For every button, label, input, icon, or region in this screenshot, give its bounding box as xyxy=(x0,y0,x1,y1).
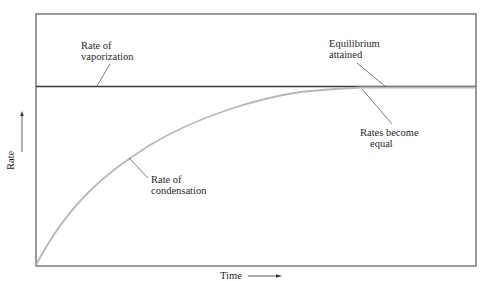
condensation-label: Rate of condensation xyxy=(151,174,206,196)
condensation-leader xyxy=(129,158,148,178)
equilibrium-leader xyxy=(357,63,386,87)
condensation-rate-curve xyxy=(36,88,476,266)
condensation-label-line2: condensation xyxy=(151,185,206,196)
x-axis-arrow-icon xyxy=(276,274,282,278)
vaporization-label-line1: Rate of xyxy=(81,40,133,51)
y-axis-arrow-icon xyxy=(20,111,24,116)
rates-equal-label: Rates become equal xyxy=(360,127,419,149)
vaporization-label: Rate of vaporization xyxy=(81,40,133,62)
rates-equal-label-line1: Rates become xyxy=(360,127,419,138)
condensation-label-line1: Rate of xyxy=(151,174,206,185)
equilibrium-label: Equilibrium attained xyxy=(329,38,380,60)
equilibrium-label-line2: attained xyxy=(329,49,380,60)
rates-equal-label-line2: equal xyxy=(360,138,419,149)
vaporization-label-line2: vaporization xyxy=(81,51,133,62)
vaporization-leader xyxy=(97,64,110,86)
x-axis-label: Time xyxy=(220,270,242,281)
y-axis-label: Rate xyxy=(5,151,16,170)
equilibrium-label-line1: Equilibrium xyxy=(329,38,380,49)
rates-equal-leader xyxy=(362,89,392,124)
